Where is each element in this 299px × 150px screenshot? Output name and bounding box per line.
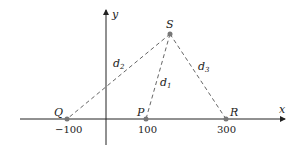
segment-d2 <box>67 34 170 119</box>
label-S: S <box>166 18 174 31</box>
x-axis-label: x <box>279 103 286 116</box>
segment-d3 <box>170 34 226 119</box>
label-P: P <box>136 106 145 119</box>
label-R: R <box>229 106 238 119</box>
label-d1: d1 <box>160 76 172 90</box>
tick-label-neg100: −100 <box>55 124 82 135</box>
label-d3: d3 <box>198 60 210 74</box>
tick-label-100: 100 <box>138 124 157 135</box>
point-R <box>224 117 229 122</box>
point-Q <box>65 117 70 122</box>
label-d2: d2 <box>113 57 125 71</box>
y-axis-label: y <box>111 8 119 21</box>
label-Q: Q <box>54 106 63 119</box>
coordinate-diagram: x y Q P R S −100 100 300 d2 d1 d3 <box>0 0 299 150</box>
tick-label-300: 300 <box>217 124 236 135</box>
point-S <box>168 32 173 37</box>
